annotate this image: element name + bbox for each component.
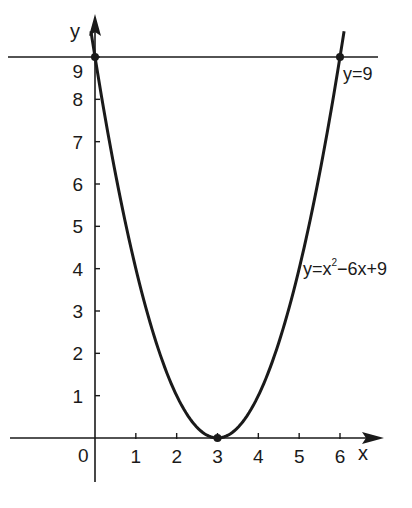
origin-label: 0 bbox=[78, 445, 89, 466]
line-label-y-equals-9: y=9 bbox=[343, 64, 373, 84]
x-tick-label: 5 bbox=[294, 446, 305, 467]
x-tick-label: 3 bbox=[212, 446, 223, 467]
y-tick-label: 2 bbox=[72, 343, 83, 364]
x-tick-label: 2 bbox=[171, 446, 182, 467]
parabola-chart: 123456123456789 y x 0 y=9 y=x2−6x+9 bbox=[0, 0, 412, 508]
y-tick-label: 8 bbox=[72, 89, 83, 110]
point-marker bbox=[214, 434, 222, 442]
y-tick-label: 4 bbox=[72, 259, 83, 280]
y-tick-label: 6 bbox=[72, 174, 83, 195]
y-tick-label: 1 bbox=[72, 386, 83, 407]
x-axis-label: x bbox=[358, 442, 368, 464]
y-tick-label: 5 bbox=[72, 216, 83, 237]
y-tick-label: 9 bbox=[72, 61, 83, 82]
axes bbox=[10, 14, 384, 482]
marked-points bbox=[91, 53, 344, 442]
x-tick-label: 6 bbox=[335, 446, 346, 467]
point-marker bbox=[336, 53, 344, 61]
point-marker bbox=[91, 53, 99, 61]
y-axis-label: y bbox=[70, 20, 80, 42]
y-tick-label: 7 bbox=[72, 132, 83, 153]
parabola-equation-label: y=x2−6x+9 bbox=[303, 257, 387, 279]
y-tick-label: 3 bbox=[72, 301, 83, 322]
x-tick-label: 4 bbox=[253, 446, 264, 467]
parabola-curve bbox=[91, 31, 344, 438]
x-tick-label: 1 bbox=[131, 446, 142, 467]
